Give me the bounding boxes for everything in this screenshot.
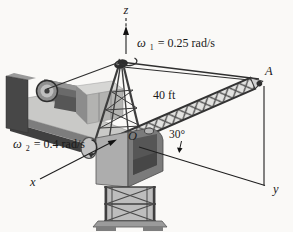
omega2-label: ω 2 = 0.4 rad/s (13, 134, 85, 154)
support-pedestal (93, 186, 167, 231)
y-axis-label: y (271, 182, 279, 196)
crane-kinematics-figure: z x y O A 40 ft 30° ω 1 = 0.25 rad/s ω 2… (0, 0, 293, 232)
omega1-label: ω 1 = 0.25 rad/s (137, 33, 215, 53)
boom-angle-label: 30° (169, 128, 186, 140)
z-axis-label: z (123, 3, 129, 17)
point-a-label: A (264, 64, 273, 78)
diagram-canvas: z x y O A 40 ft 30° ω 1 = 0.25 rad/s ω 2… (0, 0, 293, 232)
boom-length-label: 40 ft (153, 88, 176, 102)
x-axis-label: x (29, 175, 36, 189)
boom-pivot-pin (145, 128, 154, 134)
pedestal-base-plate (93, 221, 167, 227)
origin-label: O (128, 129, 137, 143)
